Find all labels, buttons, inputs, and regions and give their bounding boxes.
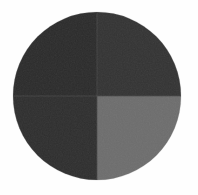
pie-chart-figure: Top left quadrant Top right quadrant Bot… bbox=[0, 0, 198, 195]
pie-chart-canvas bbox=[0, 0, 198, 195]
